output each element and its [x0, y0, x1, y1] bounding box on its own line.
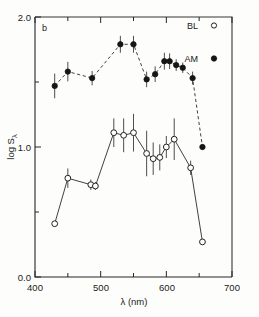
data-point-bl	[188, 165, 194, 171]
data-point-am	[89, 75, 94, 80]
data-point-am	[162, 59, 167, 64]
legend-label-am: AM	[185, 54, 199, 64]
data-point-am	[190, 75, 195, 80]
data-point-bl	[131, 130, 137, 136]
data-point-bl	[111, 130, 117, 136]
data-point-am	[180, 65, 185, 70]
legend-label-bl: BL	[187, 21, 198, 31]
data-point-bl	[144, 151, 150, 157]
data-point-am	[131, 42, 136, 47]
y-tick-label-0: 0.0	[18, 272, 31, 283]
data-point-bl	[150, 156, 156, 162]
data-point-am	[167, 59, 172, 64]
data-point-bl	[200, 239, 206, 245]
y-tick-label-1: 1.0	[18, 142, 31, 153]
data-point-bl	[93, 183, 99, 189]
data-point-am	[118, 42, 123, 47]
data-point-am	[173, 62, 178, 67]
x-tick-label-700: 700	[224, 282, 240, 293]
data-point-am	[152, 72, 157, 77]
data-point-am	[52, 83, 57, 88]
legend-marker-am-filled-circle-icon	[211, 56, 216, 61]
data-point-am	[65, 69, 70, 74]
data-point-bl	[171, 136, 177, 142]
y-axis-tick-labels: 2.0 1.0 0.0	[18, 12, 31, 283]
panel-label: b	[42, 23, 47, 33]
spectral-sensitivity-chart: 2.0 1.0 0.0 400 500 600 700 λ (nm) log S…	[0, 0, 259, 317]
y-axis-ticks	[35, 17, 41, 277]
y-tick-label-2: 2.0	[18, 12, 31, 23]
data-point-am	[144, 77, 149, 82]
figure-panel-b: 2.0 1.0 0.0 400 500 600 700 λ (nm) log S…	[0, 0, 259, 317]
x-tick-label-400: 400	[27, 282, 43, 293]
data-series-layer	[52, 36, 206, 245]
legend-marker-bl-open-circle-icon	[211, 23, 216, 28]
y-axis-title-main: log S	[5, 138, 16, 160]
series-am	[52, 36, 205, 150]
data-point-bl	[157, 155, 163, 161]
series-line-am	[55, 44, 203, 147]
x-axis-title: λ (nm)	[121, 296, 148, 307]
series-line-bl	[55, 133, 203, 242]
x-axis-tick-labels: 400 500 600 700	[27, 282, 240, 293]
legend: BL AM	[185, 21, 217, 64]
data-point-bl	[163, 144, 169, 150]
data-point-bl	[65, 175, 71, 181]
data-point-bl	[121, 132, 127, 138]
x-tick-label-500: 500	[93, 282, 109, 293]
x-tick-label-600: 600	[159, 282, 175, 293]
series-bl	[52, 114, 206, 245]
data-point-am	[200, 144, 205, 149]
y-axis-title-subscript: λ	[10, 134, 19, 138]
data-point-bl	[52, 221, 58, 227]
